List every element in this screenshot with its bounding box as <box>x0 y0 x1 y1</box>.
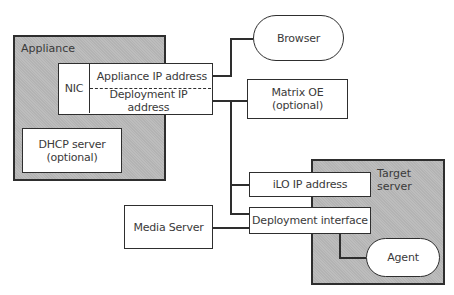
connector-to-ilo <box>230 184 249 186</box>
appliance-label: Appliance <box>21 42 75 55</box>
appliance-ip-address: Appliance IP address <box>90 65 211 87</box>
connector-appliance-ip-to-browser <box>213 75 231 77</box>
dhcp-optional-label: (optional) <box>46 151 97 164</box>
connector-appliance-ip-to-browser <box>230 38 253 40</box>
deployment-interface-box: Deployment interface <box>249 207 371 234</box>
deployment-ip-address: Deployment IP address <box>90 90 211 112</box>
target-server-label: Target server <box>377 167 443 193</box>
nic-label: NIC <box>59 64 89 113</box>
connector-media-server-to-deployment-interface <box>213 227 249 229</box>
browser-node: Browser <box>253 15 344 61</box>
dhcp-server-label: DHCP server <box>38 138 105 151</box>
dhcp-server-box: DHCP server (optional) <box>22 128 122 173</box>
connector-deployment-trunk <box>230 100 232 214</box>
nic-box: NIC Appliance IP address Deployment IP a… <box>58 63 213 115</box>
agent-label: Agent <box>387 251 419 264</box>
connector-deployment-interface-to-agent <box>339 234 341 258</box>
agent-node: Agent <box>366 238 440 277</box>
matrix-oe-optional-label: (optional) <box>272 99 323 112</box>
connector-appliance-ip-to-browser <box>230 38 232 77</box>
deployment-interface-label: Deployment interface <box>252 214 368 227</box>
connector-to-deployment-interface <box>230 213 249 215</box>
connector-deployment-interface-to-agent <box>339 257 366 259</box>
ilo-ip-address-box: iLO IP address <box>249 172 371 197</box>
media-server-box: Media Server <box>124 205 213 249</box>
browser-label: Browser <box>277 32 320 45</box>
media-server-label: Media Server <box>133 221 203 234</box>
matrix-oe-box: Matrix OE (optional) <box>247 79 348 119</box>
matrix-oe-label: Matrix OE <box>272 86 324 99</box>
ilo-ip-address-label: iLO IP address <box>273 178 348 191</box>
